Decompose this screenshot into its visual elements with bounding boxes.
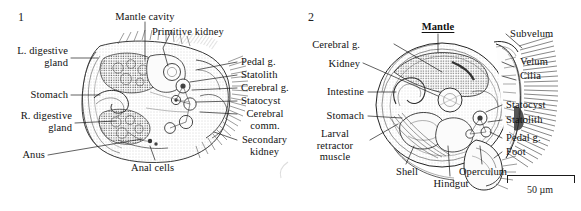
scale-bar-label: 50 µm: [507, 184, 573, 195]
label-velum: Velum: [520, 56, 548, 68]
label-secondary-kidney: Secondary kidney: [238, 134, 291, 157]
label-primitive-kidney: Primitive kidney: [152, 26, 224, 38]
label-statocyst: Statocyst: [506, 99, 545, 111]
label-mantle: Mantle: [408, 21, 468, 33]
label-r-digestive-gland: R. digestive gland: [4, 110, 72, 133]
label-subvelum: Subvelum: [510, 28, 553, 40]
label-intestine: Intestine: [298, 86, 364, 98]
scale-bar: 50 µm: [507, 175, 573, 197]
label-operculum: Operculum: [452, 166, 514, 178]
label-anus: Anus: [4, 149, 45, 161]
figure-panel-1: 1: [0, 0, 291, 211]
label-cerebral-g: Cerebral g.: [241, 82, 289, 94]
label-foot: Foot: [506, 146, 526, 158]
scan-artifact: [276, 160, 290, 180]
label-anal-cells: Anal cells: [131, 162, 174, 174]
label-kidney: Kidney: [298, 58, 360, 70]
label-cerebral-g: Cerebral g.: [298, 39, 360, 51]
label-hindgut: Hindgut: [426, 178, 476, 190]
label-statolith: Statolith: [506, 114, 543, 126]
label-statolith: Statolith: [241, 69, 278, 81]
label-statocyst: Statocyst: [241, 95, 280, 107]
label-cilia: Cilia: [520, 70, 541, 82]
label-pedal-g: Pedal g.: [241, 56, 276, 68]
figure-panel-2: 2: [290, 0, 581, 211]
scale-bar-line: [507, 175, 575, 183]
label-stomach: Stomach: [4, 89, 68, 101]
label-l-digestive-gland: L. digestive gland: [4, 45, 68, 68]
label-mantle-cavity: Mantle cavity: [97, 11, 193, 23]
label-larval-retractor-muscle: Larval retractor muscle: [306, 128, 364, 163]
label-pedal-g: Pedal g.: [506, 132, 541, 144]
label-cerebral-comm: Cerebral comm.: [241, 108, 289, 131]
label-stomach: Stomach: [298, 110, 364, 122]
label-shell: Shell: [386, 166, 428, 178]
